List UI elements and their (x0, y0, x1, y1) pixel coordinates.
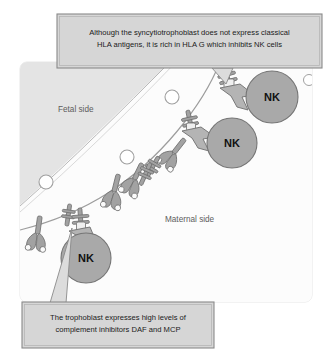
bottom-caption-line-2: complement inhibitors DAF and MCP (56, 325, 181, 334)
vesicle (304, 75, 315, 86)
nk-cell-label: NK (264, 91, 280, 103)
vesicle (39, 175, 53, 189)
placental-interface-diagram: NK NK NK Fetal side Maternal side Althou… (0, 0, 332, 360)
vesicle (165, 90, 179, 104)
nk-cell-label: NK (224, 137, 240, 149)
bottom-caption-line-1: The trophoblast expresses high levels of (50, 313, 187, 322)
bottom-caption-box: The trophoblast expresses high levels of… (22, 302, 214, 348)
top-caption-box: Although the syncytiotrophoblast does no… (57, 14, 322, 68)
nk-cell-label: NK (78, 252, 94, 264)
maternal-side-label: Maternal side (165, 215, 215, 224)
nk-cell: NK (207, 118, 257, 168)
vesicle (120, 150, 134, 164)
top-caption-line-2: HLA antigens, it is rich in HLA G which … (97, 40, 282, 49)
nk-cell: NK (246, 71, 298, 123)
fetal-side-label: Fetal side (58, 105, 94, 114)
figure-container: NK NK NK Fetal side Maternal side Althou… (0, 0, 332, 360)
top-caption-line-1: Although the syncytiotrophoblast does no… (89, 28, 290, 37)
